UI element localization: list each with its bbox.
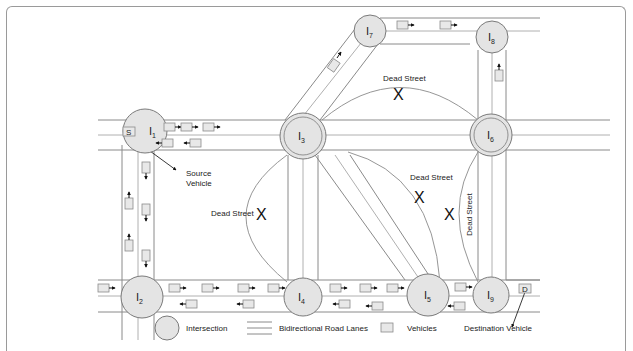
legend-destination-label: Destination Vehicle [464, 324, 533, 333]
legend: Intersection Bidirectional Road Lanes Ve… [155, 316, 533, 340]
destination-vehicle-marker: D [519, 284, 531, 294]
blocked-icon-top: X [393, 86, 404, 103]
blocked-icon-right: X [444, 206, 455, 223]
legend-intersection-icon [155, 316, 179, 340]
dead-street-label-mid: Dead Street [410, 173, 453, 182]
legend-lanes-label: Bidirectional Road Lanes [279, 324, 368, 333]
intersection-i7: I7 [354, 15, 386, 47]
source-vehicle-marker: S [123, 127, 135, 137]
intersection-i6: I6 [470, 114, 512, 156]
intersection-i2: I2 [121, 276, 163, 318]
dead-street-label-right: Dead Street [465, 193, 474, 236]
road-i3-i4 [288, 155, 318, 280]
svg-text:D: D [522, 285, 528, 294]
road-i8-i9 [478, 50, 540, 280]
vehicles [98, 21, 503, 310]
dead-street-label-top: Dead Street [383, 74, 426, 83]
intersection-i8: I8 [476, 21, 508, 53]
dead-street-label-left: Dead Street [211, 209, 254, 218]
intersection-i3: I3 [280, 113, 326, 159]
dead-street-arcs [246, 88, 478, 283]
blocked-icon-mid: X [414, 189, 425, 206]
destination-pointer-arrow [512, 292, 525, 327]
intersection-i4: I4 [284, 278, 322, 316]
legend-lanes-icon [247, 322, 272, 334]
legend-intersection-label: Intersection [186, 324, 227, 333]
source-vehicle-label: Source [186, 169, 212, 178]
legend-vehicle-icon [381, 323, 393, 332]
legend-vehicles-label: Vehicles [407, 324, 437, 333]
intersection-i5: I5 [407, 274, 449, 316]
source-vehicle-label-2: Vehicle [186, 179, 212, 188]
intersection-i9: I9 [473, 277, 509, 313]
blocked-icon-left: X [256, 206, 267, 223]
svg-text:S: S [126, 128, 131, 137]
